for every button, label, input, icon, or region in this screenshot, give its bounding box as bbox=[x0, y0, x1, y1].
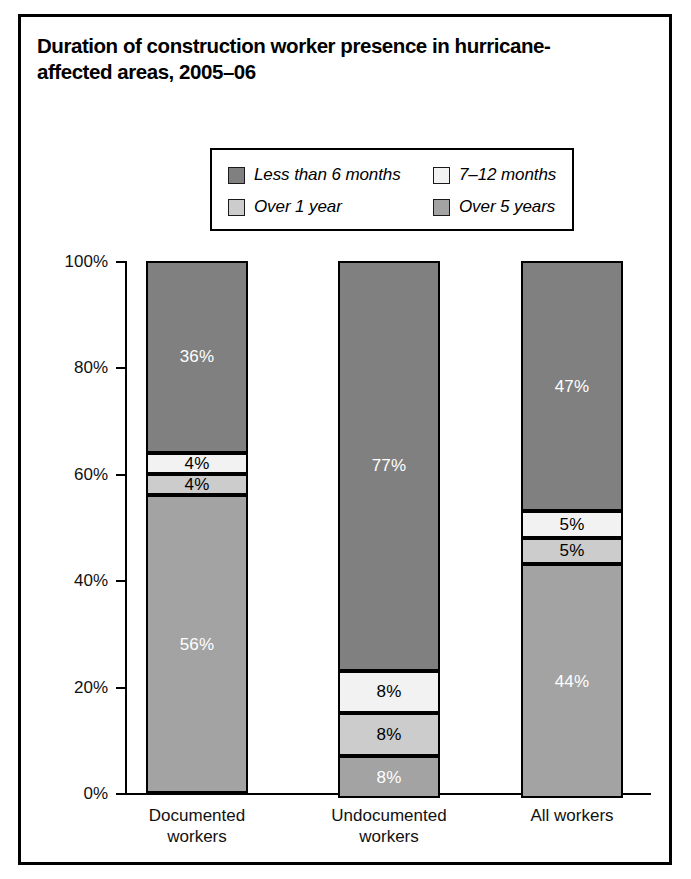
y-axis-line bbox=[125, 261, 127, 793]
y-axis-tick-label: 0% bbox=[46, 784, 108, 804]
y-axis-tick bbox=[116, 687, 125, 689]
bar-segment-label: 56% bbox=[180, 636, 215, 653]
y-axis-tick-label: 20% bbox=[46, 678, 108, 698]
x-axis-category-label: Undocumentedworkers bbox=[294, 805, 484, 847]
stacked-bar[interactable]: 47%5%5%44% bbox=[521, 261, 623, 793]
bar-segment[interactable]: 44% bbox=[521, 564, 623, 798]
y-axis-tick bbox=[116, 367, 125, 369]
x-axis-category-label-line: workers bbox=[294, 826, 484, 847]
chart-figure: Duration of construction worker presence… bbox=[18, 14, 672, 865]
bar-segment[interactable]: 36% bbox=[146, 261, 248, 453]
bar-segment[interactable]: 8% bbox=[338, 756, 440, 799]
y-axis-tick-label: 80% bbox=[46, 358, 108, 378]
bar-segment-label: 8% bbox=[377, 683, 402, 700]
bar-segment-label: 8% bbox=[377, 726, 402, 743]
x-axis-category-label-line: Undocumented bbox=[294, 805, 484, 826]
bar-segment-label: 36% bbox=[180, 348, 215, 365]
bar-segment-label: 4% bbox=[185, 476, 210, 493]
x-axis-category-label-line: Documented bbox=[102, 805, 292, 826]
y-axis-tick bbox=[116, 793, 125, 795]
bar-segment[interactable]: 8% bbox=[338, 671, 440, 714]
bar-segment-label: 4% bbox=[185, 455, 210, 472]
bar-segment[interactable]: 47% bbox=[521, 261, 623, 511]
bar-segment-label: 8% bbox=[377, 769, 402, 786]
y-axis-tick bbox=[116, 261, 125, 263]
bar-segment-label: 44% bbox=[555, 673, 590, 690]
bar-segment[interactable]: 8% bbox=[338, 713, 440, 756]
bar-segment[interactable]: 4% bbox=[146, 453, 248, 474]
bar-segment-label: 77% bbox=[372, 457, 407, 474]
bar-segment-label: 5% bbox=[560, 516, 585, 533]
bar-segment[interactable]: 4% bbox=[146, 474, 248, 495]
x-axis-category-label: All workers bbox=[477, 805, 667, 826]
bar-segment[interactable]: 77% bbox=[338, 261, 440, 671]
y-axis-tick bbox=[116, 474, 125, 476]
y-axis-tick bbox=[116, 580, 125, 582]
x-axis-category-label-line: workers bbox=[102, 826, 292, 847]
y-axis-tick-label: 40% bbox=[46, 571, 108, 591]
y-axis-tick-label: 60% bbox=[46, 465, 108, 485]
stacked-bar[interactable]: 77%8%8%8% bbox=[338, 261, 440, 793]
bar-segment-label: 5% bbox=[560, 542, 585, 559]
bar-segment-label: 47% bbox=[555, 378, 590, 395]
x-axis-category-label: Documentedworkers bbox=[102, 805, 292, 847]
bar-segment[interactable]: 56% bbox=[146, 495, 248, 793]
bar-segment[interactable]: 5% bbox=[521, 511, 623, 538]
plot-area: 0%20%40%60%80%100%36%4%4%56%Documentedwo… bbox=[21, 17, 675, 868]
stacked-bar[interactable]: 36%4%4%56% bbox=[146, 261, 248, 793]
y-axis-tick-label: 100% bbox=[46, 252, 108, 272]
x-axis-category-label-line: All workers bbox=[477, 805, 667, 826]
bar-segment[interactable]: 5% bbox=[521, 538, 623, 565]
